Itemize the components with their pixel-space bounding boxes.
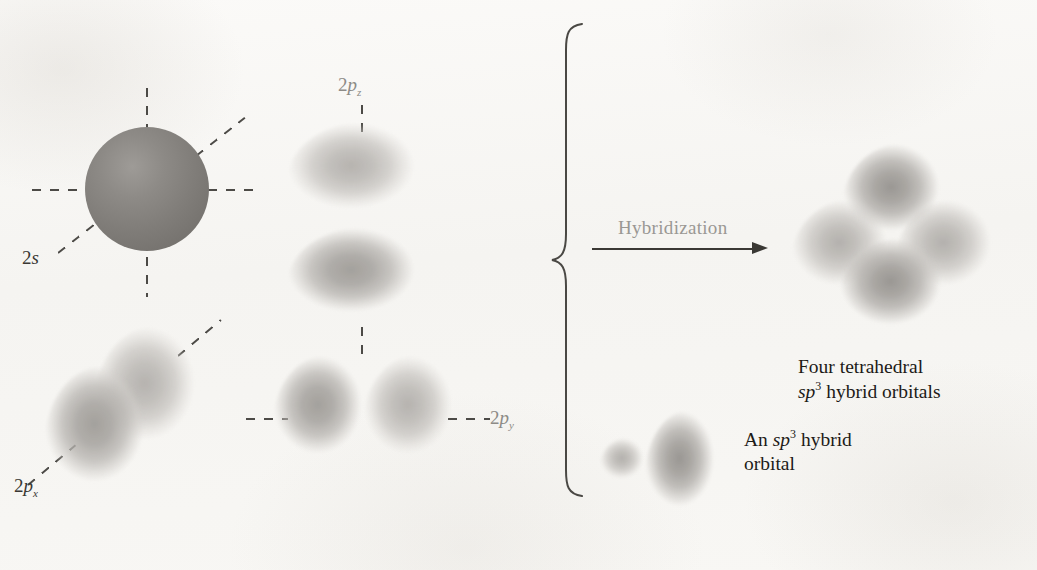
axis-2s-horizontal-left: [32, 189, 84, 191]
orbital-2s-symbol: s: [32, 247, 39, 268]
orbital-2px-lobe-near: [45, 366, 163, 518]
sp3-single-caption-hybrid: hybrid: [796, 429, 852, 450]
orbital-2pz-symbol: p: [348, 74, 358, 95]
sp3-cluster-lobe-bottom: [840, 238, 966, 358]
orbital-hybridization-figure: 2s 2pz 2px 2py Hybridi: [0, 0, 1037, 570]
sp3-single-front-lobe: [645, 411, 731, 543]
orbital-2pz-label: 2pz: [338, 73, 361, 100]
axis-2s-horizontal-right: [208, 189, 260, 191]
orbital-2py-lobe-left: [274, 356, 378, 484]
sp3-cluster-caption-rest: hybrid orbitals: [821, 381, 940, 402]
orbital-2py-subscript: y: [509, 419, 514, 431]
orbital-2pz-lobe-lower: [288, 228, 438, 338]
hybridization-label: Hybridization: [618, 216, 727, 240]
sp3-cluster-caption-line2: sp3 hybrid orbitals: [798, 379, 941, 404]
orbital-2pz-prefix: 2: [338, 74, 348, 95]
orbital-2px-label: 2px: [14, 474, 38, 501]
orbital-2py-label: 2py: [490, 406, 514, 433]
orbital-2py-prefix: 2: [490, 407, 500, 428]
orbital-2pz-subscript: z: [357, 86, 361, 98]
sp3-single-caption: An sp3 hybrid orbital: [744, 427, 852, 476]
arrow-head-icon: [752, 242, 768, 254]
sp3-single-caption-line1: An sp3 hybrid: [744, 427, 852, 452]
orbital-2px-prefix: 2: [14, 475, 24, 496]
orbital-2py-lobe-right: [364, 356, 468, 484]
arrow-shaft: [592, 248, 754, 250]
sp3-single-sp-italic: sp: [773, 429, 790, 450]
orbital-2pz-lobe-upper: [288, 123, 438, 235]
axis-2s-diagonal-upper-right: [195, 117, 245, 157]
orbital-2px-symbol: p: [24, 475, 34, 496]
orbital-2px-subscript: x: [33, 487, 38, 499]
sp3-cluster-sp-italic: sp: [798, 381, 815, 402]
sp3-single-caption-line2: orbital: [744, 452, 852, 476]
orbital-2s-label: 2s: [22, 246, 39, 270]
grouping-brace: [548, 20, 598, 500]
sp3-cluster-caption: Four tetrahedral sp3 hybrid orbitals: [798, 355, 941, 404]
orbital-2s-prefix: 2: [22, 247, 32, 268]
sp3-cluster-caption-line1: Four tetrahedral: [798, 355, 941, 379]
sp3-single-caption-an: An: [744, 429, 773, 450]
orbital-2py-symbol: p: [500, 407, 510, 428]
orbital-2s-sphere: [85, 127, 209, 251]
